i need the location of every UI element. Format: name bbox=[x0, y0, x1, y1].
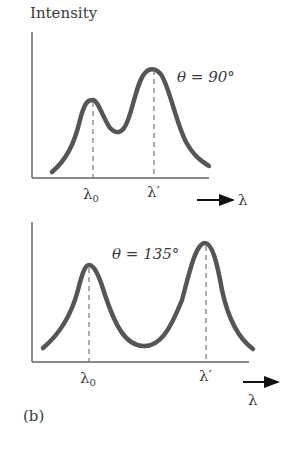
lambda0-label: λ0 bbox=[80, 369, 96, 388]
y-axis-label: Intensity bbox=[30, 4, 98, 22]
angle-label: θ = 135° bbox=[112, 245, 179, 263]
x-axis-symbol: λ bbox=[238, 191, 248, 209]
lambda-prime-label: λ′ bbox=[199, 367, 213, 385]
panel-135: θ = 135° λ0 λ′ λ bbox=[32, 222, 278, 409]
x-axis-symbol: λ bbox=[248, 391, 258, 409]
lambda0-label: λ0 bbox=[83, 185, 99, 204]
compton-scattering-figure: Intensity θ = 90° λ0 λ′ λ θ = 135° λ0 λ′… bbox=[0, 0, 296, 452]
panel-90: θ = 90° λ0 λ′ λ bbox=[32, 32, 248, 209]
figure-label: (b) bbox=[23, 407, 44, 425]
angle-label: θ = 90° bbox=[177, 68, 235, 86]
lambda-prime-label: λ′ bbox=[147, 183, 161, 201]
